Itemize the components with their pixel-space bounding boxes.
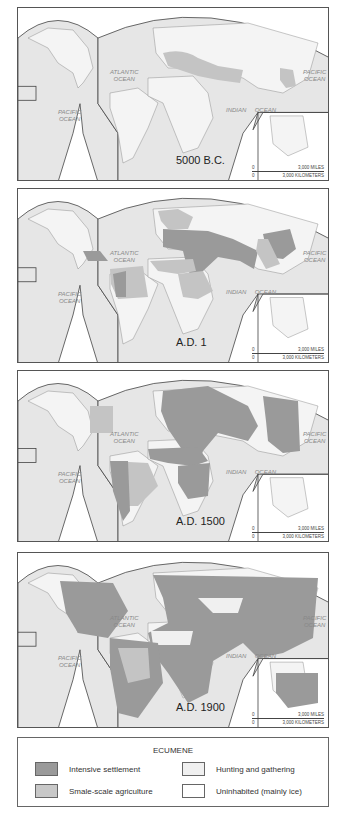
pacific-ocean-west-label: PACIFICOCEAN: [58, 109, 81, 123]
pacific-ocean-west-label: PACIFICOCEAN: [58, 471, 81, 485]
atlantic-ocean-label: ATLANTICOCEAN: [110, 250, 139, 264]
world-map: [18, 189, 329, 363]
map-panel-1: ATLANTICOCEAN PACIFICOCEAN PACIFICOCEAN …: [17, 188, 329, 363]
legend-label: Intensive settlement: [69, 765, 140, 774]
indian-ocean-label: INDIAN OCEAN: [226, 107, 276, 114]
pacific-ocean-east-label: PACIFICOCEAN: [303, 615, 326, 629]
legend-title: ECUMENE: [18, 746, 328, 755]
era-label: A.D. 1900: [176, 701, 225, 713]
world-map: [18, 371, 329, 542]
era-label: A.D. 1500: [176, 515, 225, 527]
indian-ocean-label: INDIAN OCEAN: [226, 653, 276, 660]
legend-item-uninhabited: Uninhabited (mainly ice): [182, 784, 302, 798]
swatch-hunting: [182, 762, 205, 776]
map-panel-2: ATLANTICOCEAN PACIFICOCEAN PACIFICOCEAN …: [17, 370, 329, 542]
legend-label: Uninhabited (mainly ice): [216, 787, 302, 796]
legend-item-small-scale: Smale-scale agriculture: [35, 784, 153, 798]
swatch-intensive: [35, 762, 58, 776]
legend-label: Hunting and gathering: [216, 765, 295, 774]
map-panel-0: ATLANTICOCEAN PACIFICOCEAN PACIFICOCEAN …: [17, 7, 329, 181]
map-panel-3: ATLANTICOCEAN PACIFICOCEAN PACIFICOCEAN …: [17, 552, 329, 728]
map-legend: ECUMENE Intensive settlement Smale-scale…: [17, 737, 329, 807]
legend-item-intensive: Intensive settlement: [35, 762, 140, 776]
pacific-ocean-east-label: PACIFICOCEAN: [303, 431, 326, 445]
indian-ocean-label: INDIAN OCEAN: [226, 469, 276, 476]
atlantic-ocean-label: ATLANTICOCEAN: [110, 615, 139, 629]
map-scale: 03,000 MILES 03,000 KILOMETERS: [252, 526, 324, 539]
world-map: [18, 553, 329, 728]
swatch-small-scale: [35, 784, 58, 798]
legend-label: Smale-scale agriculture: [69, 787, 153, 796]
legend-item-hunting: Hunting and gathering: [182, 762, 295, 776]
map-scale: 03,000 MILES 03,000 KILOMETERS: [252, 712, 324, 725]
indian-ocean-label: INDIAN OCEAN: [226, 289, 276, 296]
pacific-ocean-east-label: PACIFICOCEAN: [303, 69, 326, 83]
era-label: A.D. 1: [176, 336, 207, 348]
map-scale: 03,000 MILES 03,000 KILOMETERS: [252, 165, 324, 178]
pacific-ocean-west-label: PACIFICOCEAN: [58, 291, 81, 305]
world-map: [18, 8, 329, 181]
pacific-ocean-west-label: PACIFICOCEAN: [58, 655, 81, 669]
era-label: 5000 B.C.: [176, 154, 225, 166]
pacific-ocean-east-label: PACIFICOCEAN: [303, 250, 326, 264]
atlantic-ocean-label: ATLANTICOCEAN: [110, 431, 139, 445]
atlantic-ocean-label: ATLANTICOCEAN: [110, 69, 139, 83]
swatch-uninhabited: [182, 784, 205, 798]
map-scale: 03,000 MILES 03,000 KILOMETERS: [252, 347, 324, 360]
